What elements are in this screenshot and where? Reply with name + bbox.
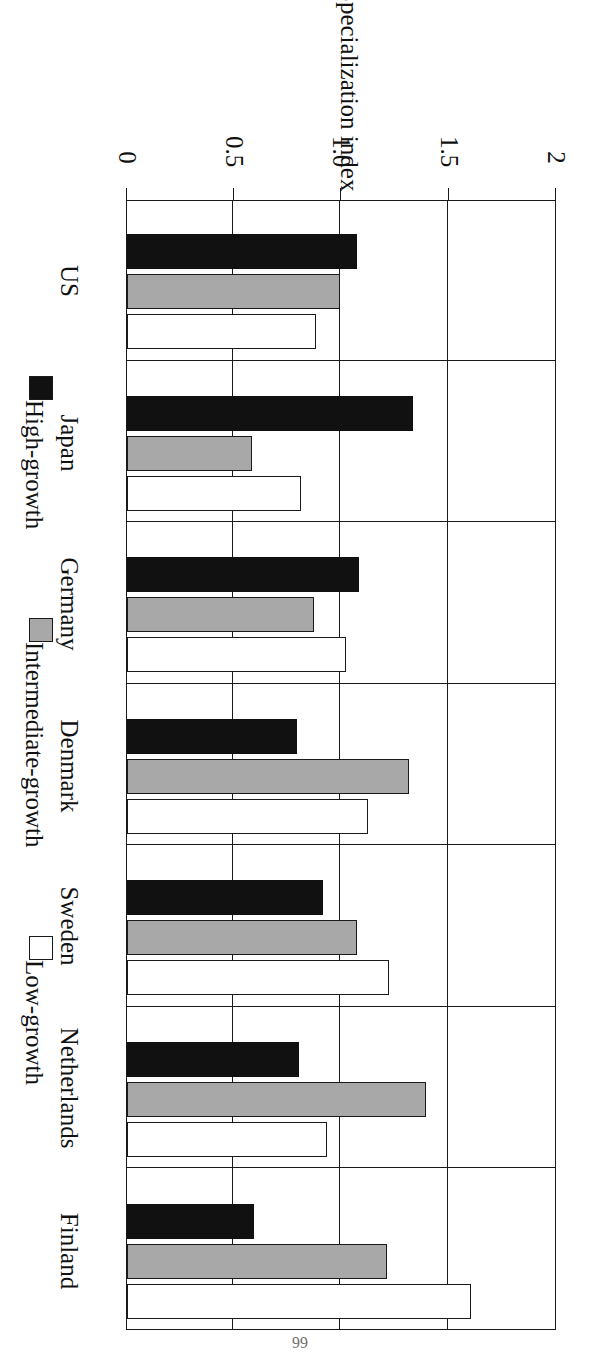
axis-title: Specialization index	[335, 0, 363, 168]
group-separator	[127, 360, 555, 361]
bar-netherlands-low-growth	[127, 1122, 327, 1157]
rotated-figure: 2 1.5 1.0 0.5 0 Specialization index Fin…	[0, 0, 604, 1360]
category-label-finland: Finland	[55, 1171, 83, 1331]
bar-finland-intermediate-growth	[127, 1244, 387, 1279]
bar-sweden-high-growth	[127, 880, 323, 915]
group-separator	[127, 521, 555, 522]
bar-japan-low-growth	[127, 476, 301, 511]
bar-netherlands-high-growth	[127, 1042, 299, 1077]
bar-us-intermediate-growth	[127, 274, 340, 309]
tick-label-0-5: 0.5	[222, 122, 247, 182]
page-number: 66	[292, 1333, 308, 1351]
group-separator	[127, 844, 555, 845]
group-separator	[127, 683, 555, 684]
tick-mark-0	[126, 188, 127, 200]
tick-label-2: 2	[544, 128, 569, 188]
category-label-sweden: Sweden	[55, 846, 83, 1006]
category-label-germany: Germany	[55, 524, 83, 684]
category-label-netherlands: Netherlands	[55, 1008, 83, 1168]
bar-denmark-low-growth	[127, 799, 368, 834]
bar-japan-intermediate-growth	[127, 436, 252, 471]
bar-finland-high-growth	[127, 1204, 254, 1239]
legend-label-high-growth: High-growth	[20, 400, 48, 529]
black-square-icon	[29, 376, 53, 400]
gray-square-icon	[29, 618, 53, 642]
tick-mark-2	[555, 188, 556, 200]
category-label-us: US	[55, 201, 83, 361]
bar-netherlands-intermediate-growth	[127, 1082, 426, 1117]
bar-sweden-intermediate-growth	[127, 920, 357, 955]
bar-denmark-intermediate-growth	[127, 759, 409, 794]
legend-label-intermediate-growth: Intermediate-growth	[20, 642, 48, 847]
tick-mark-0-5	[233, 188, 234, 200]
tick-mark-1-5	[448, 188, 449, 200]
bar-japan-high-growth	[127, 396, 413, 431]
group-separator	[127, 1006, 555, 1007]
bar-denmark-high-growth	[127, 719, 297, 754]
category-label-japan: Japan	[55, 363, 83, 523]
bar-germany-high-growth	[127, 557, 359, 592]
bar-chart: 2 1.5 1.0 0.5 0 Specialization index Fin…	[0, 0, 604, 1360]
group-separator	[127, 1167, 555, 1168]
bar-germany-low-growth	[127, 637, 346, 672]
tick-label-1-5: 1.5	[437, 122, 462, 182]
tick-label-0: 0	[115, 128, 140, 188]
category-label-denmark: Denmark	[55, 686, 83, 846]
white-square-icon	[29, 936, 53, 960]
bar-germany-intermediate-growth	[127, 597, 314, 632]
gridline-1-5	[447, 201, 448, 1329]
bar-sweden-low-growth	[127, 960, 389, 995]
bar-us-high-growth	[127, 234, 357, 269]
plot-area	[126, 200, 556, 1330]
bar-us-low-growth	[127, 314, 316, 349]
legend-label-low-growth: Low-growth	[20, 960, 48, 1085]
bar-finland-low-growth	[127, 1284, 471, 1319]
